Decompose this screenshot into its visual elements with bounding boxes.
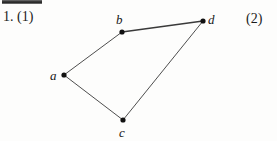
graph-vertex-c: [120, 117, 125, 122]
graph-edge-a-b: [64, 32, 122, 75]
graph-edge-b-d: [122, 21, 203, 32]
edge-layer: [64, 21, 203, 120]
scanned-page: 1. (1) (2) a b c d: [0, 0, 277, 141]
graph-vertex-d: [200, 18, 205, 23]
graph-vertex-b: [119, 29, 124, 34]
graph-edge-c-a: [64, 75, 123, 120]
graph-vertex-a: [61, 72, 66, 77]
vertex-label-d: d: [208, 13, 215, 26]
vertex-label-c: c: [119, 126, 125, 139]
vertex-label-a: a: [50, 69, 57, 82]
graph-edge-d-c: [123, 21, 203, 120]
graph-figure: [0, 0, 277, 141]
vertex-label-b: b: [116, 13, 123, 26]
